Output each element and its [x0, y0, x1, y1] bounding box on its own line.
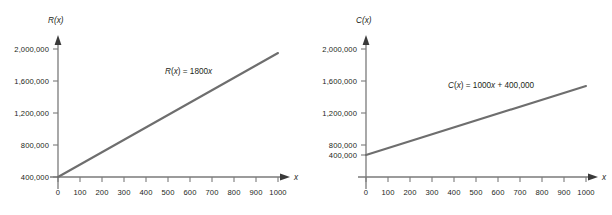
x-tick-label-300: 300 [118, 188, 131, 197]
x-tick-label-1000: 1000 [269, 188, 286, 197]
x-tick-label-100: 100 [74, 188, 87, 197]
eq-intercept: 400,000 [504, 81, 534, 90]
x-tick-label-0: 0 [56, 188, 60, 197]
y-tick-label-2000000: 2,000,000 [322, 45, 357, 54]
y-axis-arrowhead [363, 35, 370, 45]
eq-slope-var: x [207, 67, 213, 76]
two-panel-line-chart-figure: R(x) x 2,000,000 1,600,000 1,200,000 800… [0, 0, 612, 215]
y-tick-label-800000: 800,000 [329, 141, 357, 150]
eq-equals: = [180, 67, 189, 76]
y-axis-label: R(x) [48, 16, 64, 25]
y-tick-label-1600000: 1,600,000 [322, 77, 357, 86]
cost-chart-panel: C(x) x 2,000,000 1,600,000 1,200,000 800… [306, 0, 612, 215]
eq-slope: 1000 [473, 81, 492, 90]
eq-plus: + [495, 81, 504, 90]
x-tick-label-900: 900 [250, 188, 263, 197]
x-tick-label-500: 500 [162, 188, 175, 197]
revenue-chart-panel: R(x) x 2,000,000 1,600,000 1,200,000 800… [0, 0, 306, 215]
x-tick-label-700: 700 [514, 188, 527, 197]
revenue-chart-svg: R(x) x 2,000,000 1,600,000 1,200,000 800… [0, 0, 306, 215]
y-tick-label-1200000: 1,200,000 [322, 109, 357, 118]
eq-slope: 1800 [190, 67, 209, 76]
cost-chart-svg: C(x) x 2,000,000 1,600,000 1,200,000 800… [306, 0, 612, 215]
x-tick-label-200: 200 [404, 188, 417, 197]
x-axis-label: x [601, 173, 607, 182]
x-tick-label-900: 900 [558, 188, 571, 197]
x-tick-label-500: 500 [470, 188, 483, 197]
x-tick-label-700: 700 [206, 188, 219, 197]
x-tick-label-0: 0 [364, 188, 368, 197]
x-tick-label-1000: 1000 [577, 188, 594, 197]
y-tick-label-1600000: 1,600,000 [14, 77, 49, 86]
y-axis-label: C(x) [356, 16, 372, 25]
y-tick-label-1200000: 1,200,000 [14, 109, 49, 118]
x-axis-arrowhead [588, 174, 598, 181]
x-tick-label-100: 100 [382, 188, 395, 197]
eq-equals: = [463, 81, 472, 90]
x-tick-label-800: 800 [536, 188, 549, 197]
cost-data-line [366, 86, 586, 155]
x-tick-label-300: 300 [426, 188, 439, 197]
x-tick-label-400: 400 [140, 188, 153, 197]
cost-equation-annotation: C(x) = 1000x + 400,000 [448, 81, 535, 90]
x-axis-arrowhead [280, 174, 290, 181]
y-tick-label-2000000: 2,000,000 [14, 45, 49, 54]
x-tick-label-400: 400 [448, 188, 461, 197]
x-tick-label-200: 200 [96, 188, 109, 197]
y-axis-arrowhead [55, 35, 62, 45]
x-tick-label-800: 800 [228, 188, 241, 197]
x-tick-label-600: 600 [184, 188, 197, 197]
x-tick-label-600: 600 [492, 188, 505, 197]
y-tick-label-800000: 800,000 [21, 141, 49, 150]
y-tick-label-400000: 400,000 [329, 151, 357, 160]
x-axis-label: x [293, 173, 299, 182]
y-tick-label-400000: 400,000 [21, 173, 49, 182]
revenue-equation-annotation: R(x) = 1800x [165, 67, 213, 76]
